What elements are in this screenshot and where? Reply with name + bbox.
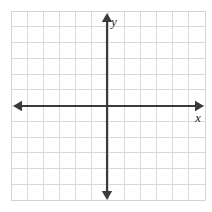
y-axis-label: y — [109, 15, 117, 29]
coordinate-plane-figure: x y — [0, 0, 212, 212]
coordinate-plane-svg: x y — [0, 0, 212, 212]
x-axis-label: x — [194, 111, 201, 125]
